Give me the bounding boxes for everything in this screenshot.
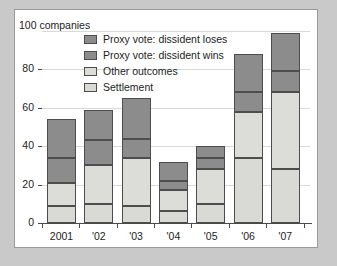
y-axis-units-label: 100 companies xyxy=(19,20,90,31)
x-axis-tick xyxy=(117,224,118,228)
x-axis-label-03: '03 xyxy=(118,231,154,242)
x-axis-label-05: '05 xyxy=(193,231,229,242)
y-axis-tick-80 xyxy=(38,69,42,70)
x-axis-tick xyxy=(266,224,267,228)
legend-swatch-icon xyxy=(84,67,97,76)
x-axis-tick xyxy=(154,224,155,228)
legend-item-label: Settlement xyxy=(103,82,153,93)
x-axis-line xyxy=(40,223,312,224)
legend-swatch-icon xyxy=(84,51,97,60)
y-axis-tick-20 xyxy=(38,185,42,186)
bar-segment xyxy=(271,71,300,92)
y-axis-tick-label-0: 0 xyxy=(0,217,34,228)
bar-segment xyxy=(84,140,113,165)
bar-segment xyxy=(47,158,76,183)
bar-segment xyxy=(159,190,188,211)
y-axis-tick-label-40: 40 xyxy=(0,140,34,151)
legend-item-label: Other outcomes xyxy=(103,66,178,77)
x-axis-tick xyxy=(191,224,192,228)
bar-segment xyxy=(234,158,263,223)
y-axis-tick-label-60: 60 xyxy=(0,102,34,113)
x-axis-tick xyxy=(79,224,80,228)
x-axis-label-2001: 2001 xyxy=(44,231,80,242)
bar-segment xyxy=(122,98,151,138)
bar-segment xyxy=(196,146,225,158)
bar-segment xyxy=(122,139,151,158)
legend-item: Proxy vote: dissident wins xyxy=(84,48,227,62)
x-axis-tick xyxy=(42,224,43,228)
gridline-60 xyxy=(42,108,310,109)
x-axis-tick xyxy=(304,224,305,228)
figure-container: 020406080100 companies2001'02'03'04'05'0… xyxy=(0,0,337,266)
bar-segment xyxy=(122,158,151,206)
y-axis-tick-40 xyxy=(38,146,42,147)
bar-segment xyxy=(271,169,300,223)
bar-segment xyxy=(84,110,113,141)
bar-segment xyxy=(271,92,300,169)
legend-swatch-icon xyxy=(84,83,97,92)
bar-segment xyxy=(84,204,113,223)
legend-item-label: Proxy vote: dissident wins xyxy=(103,50,224,61)
bar-segment xyxy=(84,165,113,203)
bar-segment xyxy=(234,92,263,111)
legend-item: Other outcomes xyxy=(84,64,227,78)
legend-item: Settlement xyxy=(84,80,227,94)
bar-segment xyxy=(122,206,151,223)
y-axis-tick-label-80: 80 xyxy=(0,63,34,74)
bar-segment xyxy=(196,204,225,223)
legend-item-label: Proxy vote: dissident loses xyxy=(103,34,227,45)
bar-segment xyxy=(159,211,188,223)
x-axis-label-06: '06 xyxy=(230,231,266,242)
bar-segment xyxy=(234,112,263,158)
gridline-40 xyxy=(42,146,310,147)
bar-segment xyxy=(47,183,76,206)
bar-segment xyxy=(159,162,188,181)
y-axis-tick-label-20: 20 xyxy=(0,179,34,190)
y-axis-tick-60 xyxy=(38,108,42,109)
bar-segment xyxy=(47,206,76,223)
legend-item: Proxy vote: dissident loses xyxy=(84,32,227,46)
bar-segment xyxy=(196,169,225,204)
bar-segment xyxy=(234,54,263,92)
bar-segment xyxy=(196,158,225,170)
x-axis-label-04: '04 xyxy=(155,231,191,242)
plot-area: 020406080100 companies2001'02'03'04'05'0… xyxy=(0,0,337,266)
bar-segment xyxy=(159,181,188,191)
legend-swatch-icon xyxy=(84,35,97,44)
bar-segment xyxy=(47,119,76,157)
chart-legend: Proxy vote: dissident losesProxy vote: d… xyxy=(84,32,227,96)
x-axis-tick xyxy=(229,224,230,228)
bar-segment xyxy=(271,33,300,71)
x-axis-label-07: '07 xyxy=(267,231,303,242)
x-axis-label-02: '02 xyxy=(81,231,117,242)
